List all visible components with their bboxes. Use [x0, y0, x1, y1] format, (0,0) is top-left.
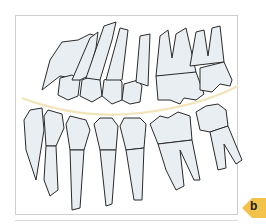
lower-molar-crown — [150, 112, 192, 144]
lower-tooth — [24, 108, 44, 180]
lower-tooth-root — [44, 146, 58, 196]
lower-tooth-crown — [120, 118, 146, 150]
upper-tooth-crown — [122, 80, 142, 104]
lower-tooth-crown — [94, 118, 118, 150]
lower-tooth-root — [100, 150, 116, 206]
lower-molar-root — [210, 126, 242, 170]
upper-molar-root — [156, 28, 196, 76]
upper-molar-crown — [200, 62, 232, 92]
lower-tooth-crown — [66, 116, 90, 150]
lower-tooth-root — [126, 148, 144, 200]
upper-molar-crown — [156, 72, 204, 104]
upper-tooth-root — [136, 34, 150, 86]
lower-tooth-crown — [44, 110, 64, 146]
lower-tooth-root — [70, 150, 84, 210]
panel-label: b — [250, 199, 257, 213]
lower-molar-root — [158, 140, 200, 190]
teeth-illustration — [0, 0, 266, 224]
upper-molar-root — [190, 26, 224, 66]
